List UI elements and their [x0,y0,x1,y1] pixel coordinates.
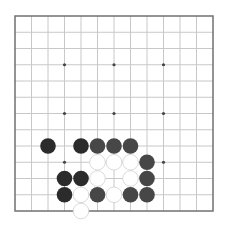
star-point [162,112,165,115]
star-point [162,161,165,164]
white-stone [73,187,89,203]
black-stone [90,138,106,154]
black-stone [139,171,155,187]
black-stone [139,154,155,170]
black-stone [123,187,139,203]
black-stone [57,187,73,203]
white-stone [73,203,89,219]
black-stone [123,138,139,154]
white-stone [123,171,139,187]
star-point [63,63,66,66]
black-stone [57,171,73,187]
star-point [112,112,115,115]
black-stone [73,138,89,154]
star-point [63,161,66,164]
black-stone [40,138,56,154]
black-stone [90,187,106,203]
white-stone [106,187,122,203]
white-stone [90,171,106,187]
white-stone [123,154,139,170]
star-point [162,63,165,66]
black-stone [73,171,89,187]
go-board[interactable] [0,0,225,232]
star-point [112,63,115,66]
black-stone [139,187,155,203]
white-stone [106,154,122,170]
white-stone [90,154,106,170]
star-point [63,112,66,115]
black-stone [106,138,122,154]
